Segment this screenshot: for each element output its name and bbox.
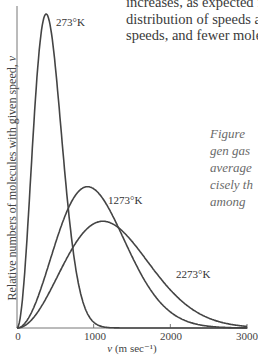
curve-1273k — [17, 187, 247, 328]
curve-273k — [17, 14, 247, 328]
x-axis-label: v (m sec⁻¹) — [92, 342, 172, 355]
curve-2273k — [17, 221, 247, 328]
chart-plot-area — [0, 0, 258, 355]
x-tick-label: 3000 — [236, 330, 258, 342]
curves — [17, 14, 247, 328]
x-tick-label: 1000 — [84, 330, 106, 342]
curve-label-273k: 273°K — [56, 16, 85, 28]
x-tick-label: 0 — [15, 330, 21, 342]
curve-label-1273k: 1273°K — [108, 194, 142, 206]
x-tick-label: 2000 — [160, 330, 182, 342]
y-axis-label: Relative numbers of molecules with given… — [5, 71, 20, 301]
curve-label-2273k: 2273°K — [176, 268, 210, 280]
